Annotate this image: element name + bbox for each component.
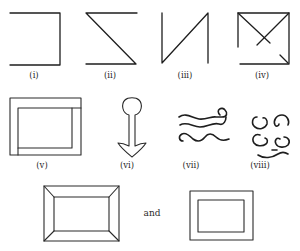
figure-vii-waves xyxy=(179,108,229,141)
label-viii: (viii) xyxy=(250,160,270,170)
label-iv: (iv) xyxy=(255,70,269,80)
figure-iii-n-shape xyxy=(162,13,208,63)
connector-text-and: and xyxy=(144,208,161,218)
label-iii: (iii) xyxy=(178,70,193,80)
label-ii: (ii) xyxy=(104,70,116,80)
label-vi: (vi) xyxy=(120,160,134,170)
label-vii: (vii) xyxy=(183,160,200,170)
label-v: (v) xyxy=(36,160,47,170)
label-i: (i) xyxy=(29,70,38,80)
figure-vi-anchor xyxy=(118,98,146,157)
figure-v-nested-rectangles xyxy=(10,98,81,155)
bottom-right-plain-frame xyxy=(190,191,253,240)
figure-i-open-rectangle xyxy=(10,13,60,65)
figure-viii-curls xyxy=(253,115,290,158)
bottom-left-beveled-frame xyxy=(44,186,119,241)
figure-iv-crossed-square xyxy=(238,13,289,64)
figure-ii-z-shape xyxy=(86,13,137,64)
